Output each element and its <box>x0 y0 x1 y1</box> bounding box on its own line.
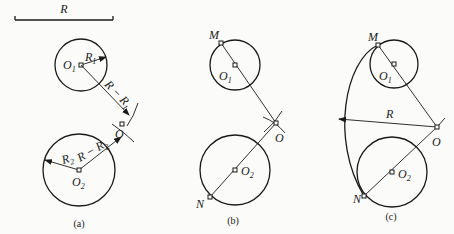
m-label: M <box>367 30 379 44</box>
r-bar-label: R <box>59 2 68 16</box>
point-n <box>208 195 212 199</box>
r1-label: R1 <box>84 50 96 66</box>
caption-b: (b) <box>227 215 239 227</box>
caption-c: (c) <box>385 211 396 223</box>
center-o <box>274 121 278 125</box>
arc-2 <box>264 111 282 132</box>
center-o <box>435 125 439 129</box>
center-o1 <box>233 63 237 67</box>
panel-b: M O1 O O2 N (b) <box>195 28 285 227</box>
caption-a: (a) <box>73 218 84 230</box>
o-label: O <box>432 135 441 149</box>
r-label: R <box>385 107 394 121</box>
r-minus-r2-label: R − R2 <box>74 136 111 167</box>
center-o2 <box>77 168 81 172</box>
o1-label: O1 <box>63 58 76 74</box>
n-label: N <box>195 197 205 211</box>
o1-label: O1 <box>379 69 392 85</box>
o-label: O <box>115 127 124 141</box>
n-label: N <box>352 192 362 206</box>
tangent-arc-construction-diagram: R R1 O1 R − R1 O R2 R − R2 O2 (a) <box>0 0 454 234</box>
panel-c: R M O1 O O2 N (c) <box>339 30 445 223</box>
r-minus-r1-label: R − R1 <box>100 77 135 112</box>
o1-label: O1 <box>219 69 232 85</box>
center-o2 <box>390 170 394 174</box>
center-o2 <box>233 168 237 172</box>
panel-a: R R1 O1 R − R1 O R2 R − R2 O2 (a) <box>15 2 138 230</box>
o2-label: O2 <box>398 167 411 183</box>
o-label: O <box>275 131 284 145</box>
given-radius-bar: R <box>15 2 113 20</box>
m-label: M <box>208 28 220 42</box>
point-n <box>362 194 366 198</box>
center-o1 <box>392 62 396 66</box>
point-m <box>219 41 223 45</box>
o2-label: O2 <box>241 164 254 180</box>
o2-label: O2 <box>72 175 85 191</box>
center-o <box>120 122 124 126</box>
